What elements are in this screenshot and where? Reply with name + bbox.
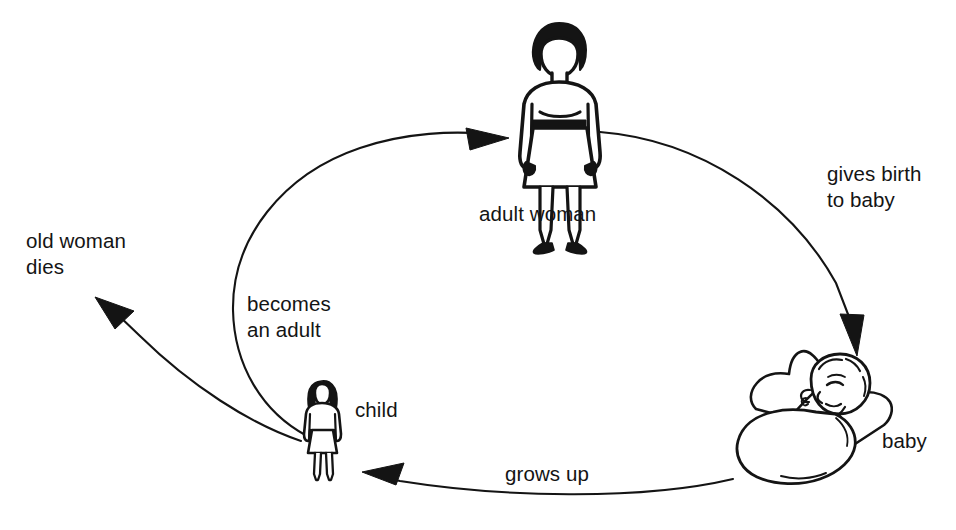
diagram-canvas — [0, 0, 956, 530]
label-adult-woman: adult woman — [479, 201, 596, 227]
baby-figure — [737, 351, 892, 484]
arrow-gives-birth-to-baby — [600, 132, 864, 356]
arrow-becomes-an-adult — [233, 128, 509, 436]
arrowhead-right — [466, 128, 509, 150]
label-becomes-an-adult-line1: becomes — [247, 292, 331, 315]
label-old-woman-dies: old womandies — [26, 228, 126, 280]
label-old-woman-dies-line2: dies — [26, 255, 64, 278]
child-figure — [304, 381, 341, 480]
arrowhead-left — [362, 463, 404, 485]
life-cycle-diagram: old womandies becomesan adult adult woma… — [0, 0, 956, 530]
label-becomes-an-adult: becomesan adult — [247, 291, 331, 343]
label-becomes-an-adult-line2: an adult — [247, 318, 321, 341]
label-gives-birth-line2: to baby — [827, 188, 895, 211]
arrowhead-down — [840, 314, 864, 356]
label-baby: baby — [882, 428, 927, 454]
label-gives-birth-line1: gives birth — [827, 162, 922, 185]
label-old-woman-dies-line1: old woman — [26, 229, 126, 252]
label-child: child — [355, 397, 398, 423]
label-gives-birth-to-baby: gives birthto baby — [827, 161, 922, 213]
label-grows-up: grows up — [505, 461, 589, 487]
